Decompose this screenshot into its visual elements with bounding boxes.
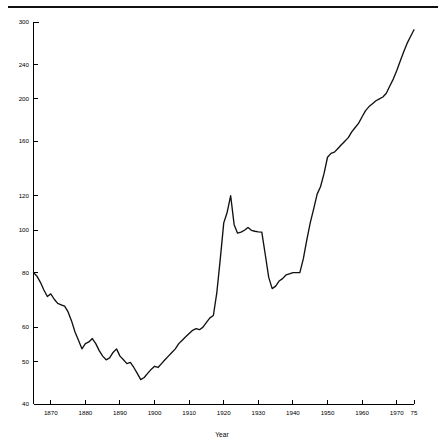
data-series-group [34, 30, 415, 380]
y-tick-label: 240 [19, 61, 30, 68]
x-tick-label: 1930 [251, 409, 265, 416]
x-tick-label: 1870 [44, 409, 58, 416]
line-chart-svg: 40506080100120160200240300 1870188018901… [0, 0, 444, 447]
y-tick-label: 80 [22, 269, 29, 276]
x-tick-label: 1960 [355, 409, 369, 416]
y-tick-label: 60 [22, 323, 29, 330]
chart-figure: 40506080100120160200240300 1870188018901… [0, 0, 444, 447]
y-tick-label: 100 [19, 226, 30, 233]
y-tick-label: 40 [22, 400, 29, 407]
data-series-line [34, 30, 415, 380]
x-tick-label: 1910 [182, 409, 196, 416]
x-axis: 1870188018901900191019201930194019501960… [34, 400, 418, 416]
x-tick-group: 1870188018901900191019201930194019501960… [44, 400, 418, 416]
x-tick-label: 1880 [79, 409, 93, 416]
chart-page: 40506080100120160200240300 1870188018901… [0, 0, 444, 447]
x-tick-label: 1900 [148, 409, 162, 416]
y-tick-group: 40506080100120160200240300 [19, 18, 38, 407]
x-tick-label: 1950 [321, 409, 335, 416]
x-tick-label: 1890 [113, 409, 127, 416]
y-axis-line [34, 22, 39, 404]
y-tick-label: 160 [19, 137, 30, 144]
y-tick-label: 200 [19, 95, 30, 102]
y-tick-label: 120 [19, 192, 30, 199]
x-tick-label: 75 [411, 409, 418, 416]
x-axis-title: Year [215, 431, 229, 438]
x-tick-label: 1970 [390, 409, 404, 416]
y-tick-label: 300 [19, 18, 30, 25]
y-axis: 40506080100120160200240300 [19, 18, 39, 407]
x-tick-label: 1940 [286, 409, 300, 416]
y-tick-label: 50 [22, 358, 29, 365]
x-tick-label: 1920 [217, 409, 231, 416]
